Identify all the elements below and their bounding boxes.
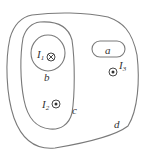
- current-i3-out-of-page-icon: [109, 68, 117, 76]
- loop-b-label: b: [44, 71, 50, 83]
- current-i2-out-of-page-icon: [52, 100, 60, 108]
- diagram-canvas: I1 I2 I3 a b c d: [0, 0, 148, 159]
- ampere-loop-diagram: I1 I2 I3 a b c d: [0, 0, 148, 159]
- current-i2-label: I2: [41, 98, 50, 112]
- loop-d-label: d: [114, 118, 120, 130]
- current-i3-label: I3: [118, 59, 127, 73]
- loop-c-label: c: [72, 104, 77, 116]
- current-i1-label: I1: [36, 48, 44, 62]
- loop-a-label: a: [105, 44, 111, 56]
- current-i1-into-page-icon: [47, 53, 55, 61]
